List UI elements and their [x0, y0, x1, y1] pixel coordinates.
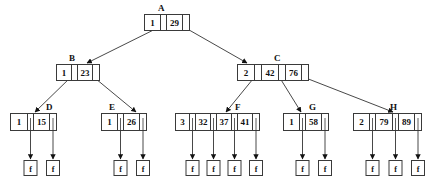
- key-text: 15: [37, 117, 47, 127]
- key-text: 89: [402, 117, 412, 127]
- leaf-text: f: [52, 165, 55, 174]
- key-text: 1: [107, 117, 112, 127]
- key-text: 76: [289, 68, 299, 78]
- pointer-cell: [279, 65, 286, 81]
- node-label: G: [309, 102, 316, 112]
- leaf-text: f: [417, 165, 420, 174]
- node-b: B123: [57, 53, 100, 81]
- node-label: F: [235, 102, 241, 112]
- key-text: 37: [220, 117, 230, 127]
- key-text: 58: [309, 117, 319, 127]
- leaf-text: f: [394, 165, 397, 174]
- key-text: 79: [380, 117, 390, 127]
- pointer-cell: [302, 65, 309, 81]
- key-text: 2: [359, 117, 364, 127]
- b-tree-diagram: A129B123C24276D115E126F3323741G158H27989…: [0, 0, 430, 187]
- node-label: E: [109, 102, 115, 112]
- key-text: 2: [244, 68, 249, 78]
- pointer-cell: [161, 15, 167, 31]
- node-label: D: [46, 102, 53, 112]
- pointer-cell: [93, 65, 100, 81]
- node-e: E126: [102, 102, 147, 131]
- leaf-text: f: [119, 165, 122, 174]
- leaf-text: f: [29, 165, 32, 174]
- leaf-text: f: [255, 165, 258, 174]
- leaf-text: f: [371, 165, 374, 174]
- key-text: 42: [266, 68, 276, 78]
- key-text: 26: [127, 117, 137, 127]
- node-label: H: [390, 102, 397, 112]
- edge-c-g: [279, 77, 301, 113]
- key-text: 1: [62, 68, 67, 78]
- node-a: A129: [145, 3, 190, 31]
- key-text: 1: [17, 117, 22, 127]
- node-h: H27989: [354, 102, 422, 131]
- leaf-text: f: [301, 165, 304, 174]
- pointer-cell: [72, 65, 78, 81]
- node-label: A: [158, 3, 165, 13]
- node-label: C: [274, 53, 281, 63]
- leaf-text: f: [233, 165, 236, 174]
- edge-a-b: [87, 27, 161, 64]
- key-text: 1: [289, 117, 294, 127]
- key-text: 3: [180, 117, 185, 127]
- node-d: D115: [11, 102, 57, 131]
- leaf-text: f: [142, 165, 145, 174]
- pointer-cell: [255, 65, 262, 81]
- leaf-text: f: [191, 165, 194, 174]
- node-label: B: [69, 53, 75, 63]
- edge-c-f: [226, 77, 255, 113]
- key-text: 1: [150, 18, 155, 28]
- key-text: 29: [170, 18, 180, 28]
- leaf-text: f: [324, 165, 327, 174]
- node-f: F3323741: [176, 102, 260, 131]
- edge-b-d: [35, 77, 72, 113]
- node-c: C24276: [238, 53, 309, 81]
- node-g: G158: [284, 102, 329, 131]
- leaf-text: f: [212, 165, 215, 174]
- key-text: 32: [199, 117, 209, 127]
- pointer-cell: [183, 15, 190, 31]
- key-text: 23: [81, 68, 91, 78]
- edge-a-c: [183, 27, 247, 64]
- key-text: 41: [241, 117, 251, 127]
